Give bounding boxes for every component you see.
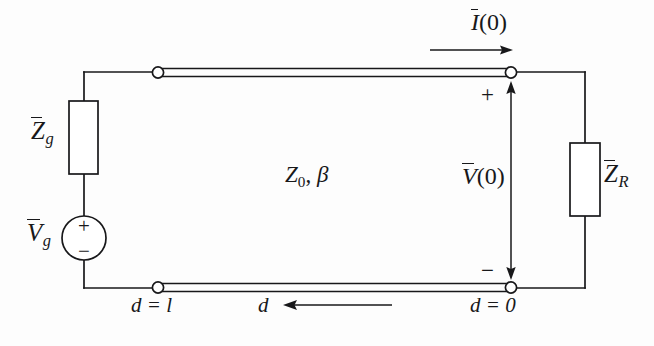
transmission-line-figure: Zg Vg ZR Z0, β I(0) V(0) + − + − d = l d… bbox=[0, 0, 654, 346]
transmission-line-top bbox=[160, 69, 512, 77]
generator-impedance-box bbox=[69, 101, 98, 174]
source-polarity-plus: + bbox=[78, 216, 90, 237]
voltage-arrow bbox=[506, 81, 515, 280]
generator-voltage-label: Vg bbox=[27, 218, 51, 250]
load-impedance-label: ZR bbox=[604, 159, 629, 191]
top-right-terminal bbox=[505, 67, 516, 78]
transmission-line-bottom bbox=[160, 284, 512, 292]
top-left-terminal bbox=[152, 67, 163, 78]
current-arrow bbox=[430, 46, 513, 55]
distance-symbol-label: d bbox=[258, 295, 269, 316]
bottom-left-terminal bbox=[152, 282, 163, 293]
distance-at-generator-label: d = l bbox=[131, 295, 172, 316]
distance-at-load-label: d = 0 bbox=[470, 295, 516, 316]
terminal-polarity-minus: − bbox=[481, 259, 494, 282]
terminal-current-label: I(0) bbox=[471, 8, 507, 34]
generator-impedance-label: Zg bbox=[31, 116, 54, 148]
bottom-right-terminal bbox=[505, 282, 516, 293]
line-parameters-label: Z0, β bbox=[285, 163, 328, 189]
source-polarity-minus: − bbox=[78, 241, 90, 262]
terminal-polarity-plus: + bbox=[481, 83, 494, 106]
wires-group bbox=[84, 72, 585, 288]
distance-arrow bbox=[283, 300, 392, 310]
terminal-voltage-label: V(0) bbox=[462, 162, 505, 188]
load-impedance-box bbox=[570, 143, 600, 216]
